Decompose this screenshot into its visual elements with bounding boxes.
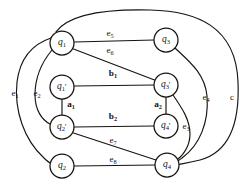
edge-e8 — [74, 165, 155, 166]
edge-label-e6: e6 — [106, 46, 113, 55]
edge-label-e1: e1 — [11, 89, 18, 98]
edge-label-e7: e7 — [109, 136, 116, 145]
edge-b2 — [74, 126, 154, 127]
node-label-q1: q1 — [58, 38, 66, 48]
edge-label-e3: e3 — [182, 122, 189, 131]
node-label-q3: q3 — [162, 35, 170, 45]
edge-label-b1: b1 — [109, 69, 117, 78]
edge-label-c: c — [230, 93, 234, 102]
node-label-q1-prime: q1′ — [57, 82, 67, 92]
edge-label-e2: e2 — [33, 89, 40, 98]
edge-b1 — [74, 85, 154, 86]
edge-label-e5: e5 — [106, 29, 113, 38]
node-label-q4: q4 — [163, 160, 171, 170]
edge-label-e4: e4 — [202, 93, 209, 102]
node-label-q4-prime: q4′ — [161, 121, 171, 131]
graph-diagram-figure: q1 q1′ q2′ q2 q3 q3′ q4′ q4 e5 e6 b1 a1 … — [0, 0, 245, 187]
edge-label-a2: a2 — [154, 100, 162, 109]
edge-c — [56, 10, 238, 165]
edge-label-b2: b2 — [109, 112, 117, 121]
node-label-q2-prime: q2′ — [57, 122, 67, 132]
edge-e5 — [74, 40, 154, 42]
node-label-q2: q2 — [58, 161, 66, 171]
edge-label-e8: e8 — [109, 155, 116, 164]
edge-label-a1: a1 — [67, 100, 75, 109]
node-label-q3-prime: q3′ — [161, 80, 171, 90]
